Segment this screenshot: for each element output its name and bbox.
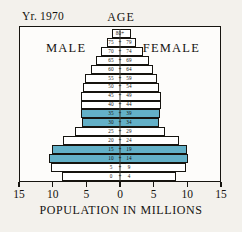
pyramid-row: 0+4	[20, 172, 220, 181]
pyramid-row: 10+14	[20, 154, 220, 163]
age-group-label: 55+59	[20, 74, 220, 83]
x-axis-tick	[18, 182, 19, 187]
population-pyramid-figure: Yr. 1970 AGE MALE FEMALE 80+75+7970+7465…	[0, 0, 242, 232]
pyramid-row: 15+19	[20, 145, 220, 154]
pyramid-row: 65+69	[20, 56, 220, 65]
pyramid-row: 40+44	[20, 101, 220, 110]
x-axis-tick-label: 10	[47, 188, 59, 200]
x-axis-title: POPULATION IN MILLIONS	[0, 203, 242, 218]
pyramid-row: 20+24	[20, 136, 220, 145]
x-axis-tick	[220, 182, 221, 187]
x-axis-tick-label: 15	[215, 188, 227, 200]
pyramid-row: 70+74	[20, 47, 220, 56]
pyramid-row: 80+	[20, 29, 220, 38]
pyramid-row: 35+39	[20, 109, 220, 118]
age-axis-title: AGE	[0, 10, 242, 25]
x-axis-tick-label: 5	[83, 188, 89, 200]
age-group-label: 70+74	[20, 47, 220, 56]
pyramid-row: 25+29	[20, 127, 220, 136]
age-group-label: 80+	[20, 29, 220, 38]
age-group-label: 15+19	[20, 145, 220, 154]
x-axis-tick-label: 10	[182, 188, 194, 200]
x-axis-tick	[119, 182, 120, 187]
plot-frame: MALE FEMALE 80+75+7970+7465+6960+6455+59…	[19, 26, 221, 182]
pyramid-row: 30+34	[20, 118, 220, 127]
x-axis-tick	[153, 182, 154, 187]
pyramid-row: 60+64	[20, 65, 220, 74]
age-group-label: 30+34	[20, 118, 220, 127]
x-axis-tick-label: 0	[117, 188, 123, 200]
pyramid-row: 5+9	[20, 163, 220, 172]
x-axis-tick	[52, 182, 53, 187]
age-group-label: 40+44	[20, 101, 220, 110]
x-axis-tick-label: 15	[13, 188, 25, 200]
age-group-label: 65+69	[20, 56, 220, 65]
age-group-label: 20+24	[20, 136, 220, 145]
x-axis-tick	[86, 182, 87, 187]
figure-header: Yr. 1970 AGE	[0, 10, 242, 26]
age-group-label: 5+9	[20, 163, 220, 172]
pyramid-row: 55+59	[20, 74, 220, 83]
pyramid-row: 45+49	[20, 92, 220, 101]
pyramid-row: 75+79	[20, 38, 220, 47]
pyramid-row: 50+54	[20, 83, 220, 92]
age-group-label: 50+54	[20, 83, 220, 92]
age-group-label: 45+49	[20, 92, 220, 101]
x-axis-tick	[187, 182, 188, 187]
x-axis: 15105051015	[19, 182, 221, 183]
x-axis-tick-label: 5	[151, 188, 157, 200]
age-group-label: 10+14	[20, 154, 220, 163]
age-group-label: 25+29	[20, 127, 220, 136]
age-group-label: 35+39	[20, 109, 220, 118]
age-group-label: 60+64	[20, 65, 220, 74]
age-group-label: 75+79	[20, 38, 220, 47]
pyramid-rows: 80+75+7970+7465+6960+6455+5950+5445+4940…	[20, 29, 220, 181]
age-group-label: 0+4	[20, 172, 220, 181]
